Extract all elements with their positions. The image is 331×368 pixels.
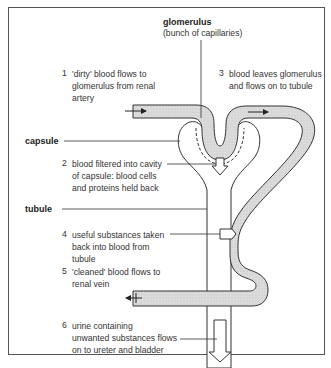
step-text: on to ureter and bladder bbox=[72, 344, 164, 356]
step-text: back into blood from bbox=[72, 241, 149, 253]
step-text: blood leaves glomerulus bbox=[229, 68, 322, 80]
step-text: useful substances taken bbox=[72, 229, 164, 241]
step-number: 1 bbox=[62, 68, 67, 78]
step-text: 'dirty' blood flows to bbox=[72, 68, 146, 80]
step-text: tubule bbox=[72, 253, 95, 265]
step-text: unwanted substances flows bbox=[72, 332, 177, 344]
step-number: 3 bbox=[219, 68, 224, 78]
step-text: and flows on to tubule bbox=[229, 80, 313, 92]
step-text: artery bbox=[72, 92, 94, 104]
step-text: 'cleaned' blood flows to bbox=[72, 266, 160, 278]
capsule-label: capsule bbox=[25, 135, 59, 147]
step-text: of capsule: blood cells bbox=[72, 170, 157, 182]
step-number: 6 bbox=[62, 320, 67, 330]
tubule-label: tubule bbox=[25, 203, 52, 215]
glomerulus-note: (bunch of capillaries) bbox=[163, 27, 242, 39]
step-text: and proteins held back bbox=[72, 182, 158, 194]
step-number: 5 bbox=[62, 266, 67, 276]
reabsorption-arrow bbox=[220, 229, 236, 239]
step-text: blood filtered into cavity bbox=[72, 158, 162, 170]
step-text: urine containing bbox=[72, 320, 133, 332]
step-number: 4 bbox=[62, 229, 67, 239]
nephron-diagram bbox=[0, 0, 331, 368]
step-text: glomerulus from renal bbox=[72, 80, 155, 92]
step-number: 2 bbox=[62, 158, 67, 168]
step-text: renal vein bbox=[72, 278, 109, 290]
